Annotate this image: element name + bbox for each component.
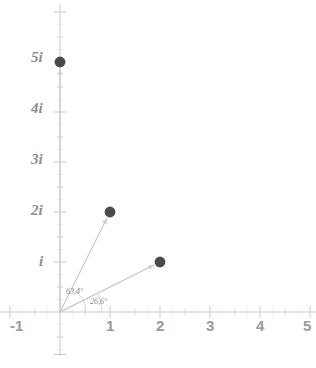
x-tick-label-1: 1	[106, 318, 114, 333]
x-tick-label-3: 3	[206, 318, 214, 333]
point-2-plus-i[interactable]	[155, 257, 166, 268]
y-tick-label-i: i	[39, 254, 43, 269]
y-tick-label-3i: 3i	[31, 152, 43, 167]
angle-label-63: 63,4°	[66, 288, 83, 296]
plot-canvas	[0, 0, 316, 368]
complex-plane-plot: -1 1 2 3 4 5 i 2i 3i 4i 5i 63,4° 26,6°	[0, 0, 316, 368]
point-5i[interactable]	[55, 57, 66, 68]
vector-5i-arrowhead	[57, 69, 62, 75]
point-1-plus-2i[interactable]	[105, 207, 116, 218]
x-tick-label--1: -1	[10, 318, 23, 333]
x-tick-label-4: 4	[256, 318, 264, 333]
x-tick-label-2: 2	[156, 318, 164, 333]
y-tick-label-4i: 4i	[31, 101, 43, 116]
x-tick-label-5: 5	[303, 318, 311, 333]
y-tick-label-2i: 2i	[31, 203, 43, 218]
y-tick-label-5i: 5i	[31, 50, 43, 65]
angle-label-26: 26,6°	[90, 298, 107, 306]
